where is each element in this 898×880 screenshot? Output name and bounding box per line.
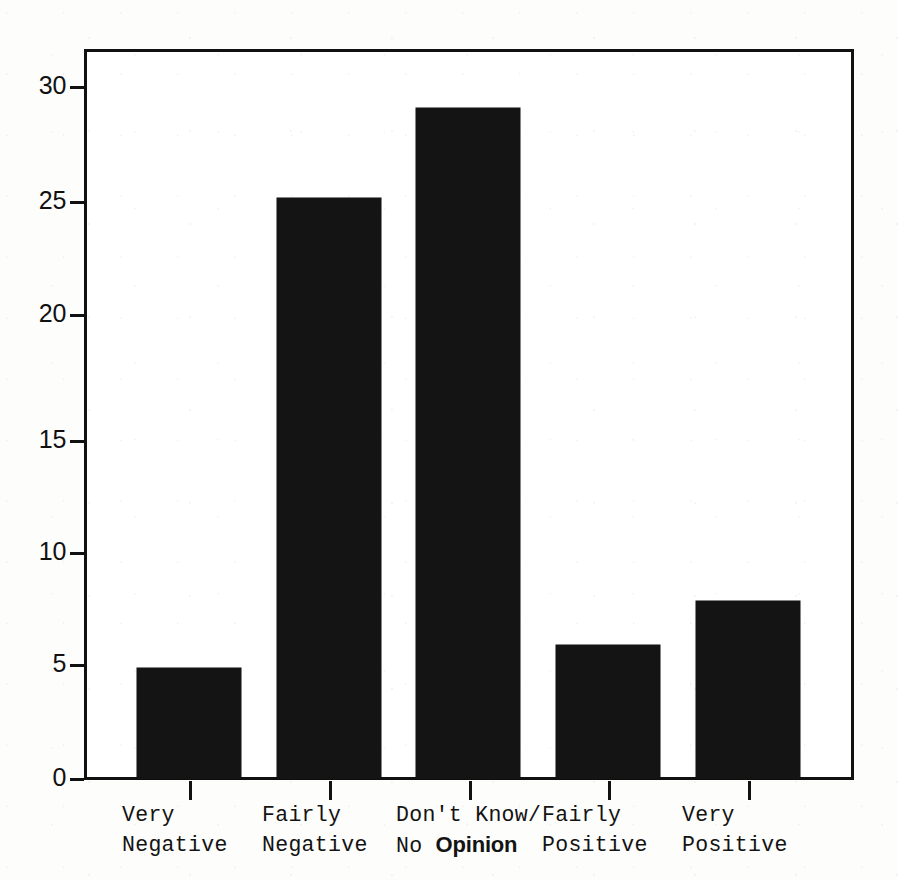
- x-tick-label-fairly-negative: Fairly Negative: [262, 800, 368, 860]
- x-label-line1-fairly-negative: Fairly: [262, 803, 341, 827]
- y-tick-mark-25: [70, 201, 84, 204]
- x-label-line1-very-negative: Very: [122, 803, 175, 827]
- x-tick-mark-dont-know: [469, 781, 472, 800]
- plot-area-frame: [84, 49, 854, 780]
- y-tick-mark-5: [70, 664, 84, 667]
- x-tick-label-very-positive: Very Positive: [682, 800, 788, 860]
- x-tick-label-very-negative: Very Negative: [122, 800, 228, 860]
- y-tick-label-5: 5: [24, 649, 66, 678]
- x-label-line2-prefix-dont-know: No: [396, 834, 436, 858]
- x-tick-mark-very-negative: [189, 781, 192, 800]
- y-tick-label-20: 20: [24, 299, 66, 328]
- x-tick-label-dont-know: Don't Know/ No Opinion: [396, 800, 541, 861]
- y-tick-label-15: 15: [24, 425, 66, 454]
- x-label-line2-fairly-negative: Negative: [262, 830, 368, 860]
- y-tick-mark-30: [70, 86, 84, 89]
- x-tick-mark-very-positive: [748, 781, 751, 800]
- x-tick-mark-fairly-positive: [608, 781, 611, 800]
- x-label-line2-fairly-positive: Positive: [542, 830, 648, 860]
- y-tick-mark-20: [70, 314, 84, 317]
- y-tick-mark-10: [70, 552, 84, 555]
- y-tick-mark-15: [70, 440, 84, 443]
- x-label-patched-word-opinion: Opinion: [436, 832, 518, 857]
- y-tick-label-10: 10: [24, 537, 66, 566]
- bar-chart-figure: 0 5 10 15 20 25 30: [0, 0, 898, 880]
- y-tick-label-0: 0: [24, 763, 66, 792]
- x-label-line1-dont-know: Don't Know/: [396, 803, 541, 827]
- x-label-line2-very-positive: Positive: [682, 830, 788, 860]
- x-label-line2-very-negative: Negative: [122, 830, 228, 860]
- x-tick-label-fairly-positive: Fairly Positive: [542, 800, 648, 860]
- x-tick-mark-fairly-negative: [329, 781, 332, 800]
- y-tick-label-25: 25: [24, 186, 66, 215]
- y-tick-mark-0: [70, 778, 84, 781]
- x-label-line1-fairly-positive: Fairly: [542, 803, 621, 827]
- x-label-line2-dont-know: No Opinion: [396, 830, 541, 861]
- x-label-line1-very-positive: Very: [682, 803, 735, 827]
- y-tick-label-30: 30: [24, 71, 66, 100]
